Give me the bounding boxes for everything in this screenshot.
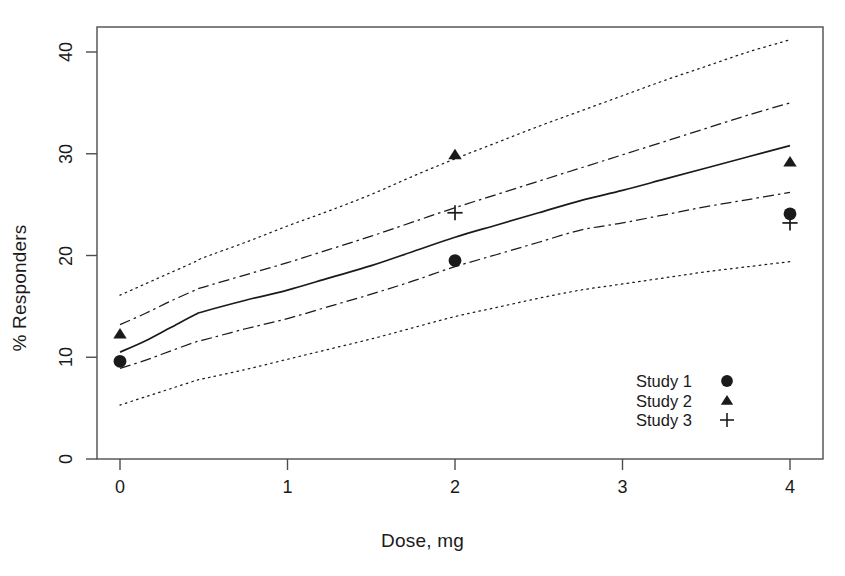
scatter-markers	[113, 149, 797, 368]
triangle-marker-icon	[783, 156, 796, 166]
y-tick-label: 40	[56, 32, 76, 72]
x-tick-label: 0	[100, 477, 140, 498]
plot-frame	[97, 27, 823, 459]
circle-marker-icon	[449, 254, 462, 267]
legend-item-label: Study 3	[636, 411, 692, 430]
y-axis-title: % Responders	[0, 0, 40, 576]
triangle-marker-icon	[113, 328, 126, 338]
triangle-marker-icon	[448, 149, 461, 159]
x-tick-label: 1	[268, 477, 308, 498]
plus-marker-icon	[782, 215, 797, 230]
legend-markers	[720, 375, 734, 427]
plus-marker-icon	[720, 413, 734, 427]
y-tick-label: 20	[56, 236, 76, 276]
dose-response-chart: Dose, mg % Responders 01234 010203040 St…	[0, 0, 845, 576]
triangle-marker-icon	[721, 395, 733, 405]
series-lines	[120, 40, 790, 405]
legend-item-label: Study 2	[636, 392, 692, 411]
legend-item-label: Study 1	[636, 372, 692, 391]
y-tick-label: 10	[56, 337, 76, 377]
circle-marker-icon	[721, 375, 733, 387]
circle-marker-icon	[114, 355, 127, 368]
x-tick-label: 3	[603, 477, 643, 498]
plus-marker-icon	[447, 205, 462, 220]
x-tick-label: 4	[770, 477, 810, 498]
y-tick-label: 30	[56, 134, 76, 174]
y-tick-label: 0	[56, 439, 76, 479]
series-line	[120, 146, 790, 353]
x-axis-title: Dose, mg	[0, 530, 845, 552]
x-tick-label: 2	[435, 477, 475, 498]
